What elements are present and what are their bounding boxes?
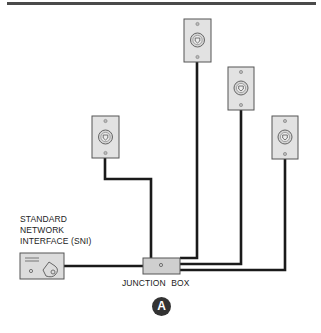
wire-jack-3 [180,110,241,264]
wall-jack-3 [228,67,254,110]
screw-icon [104,119,107,122]
wall-jack-4 [272,116,298,159]
screw-icon [239,103,242,106]
sni-label: STANDARD NETWORK INTERFACE (SNI) [20,214,91,247]
junction-box-label: JUNCTION BOX [122,278,189,289]
sni-box [20,253,64,279]
screw-icon [283,152,286,155]
callout-badge-a: A [152,297,171,316]
screw-icon [196,22,199,25]
screw-icon [239,70,242,73]
sni-label-line-3: INTERFACE (SNI) [20,236,91,247]
wall-jack-2 [184,19,211,62]
diagram-canvas: STANDARD NETWORK INTERFACE (SNI) JUNCTIO… [0,0,321,333]
wall-jack-1 [92,116,119,158]
junction-box [143,258,180,274]
screw-icon [196,55,199,58]
sni-label-line-2: NETWORK [20,225,91,236]
screw-icon [283,119,286,122]
sni-label-line-1: STANDARD [20,214,91,225]
wire-jack-1 [105,158,151,259]
screw-icon [104,151,107,154]
wire-jack-2 [180,62,197,258]
